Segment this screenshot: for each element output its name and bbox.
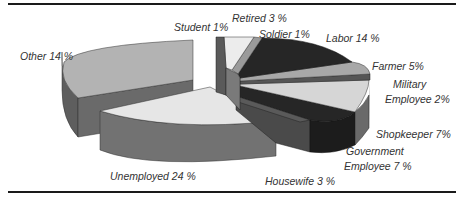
label-government-line1: Government: [346, 145, 404, 157]
label-unemployed: Unemployed 24 %: [110, 170, 196, 182]
label-student: Student 1%: [174, 21, 228, 33]
label-military-line2: Employee 2%: [385, 93, 450, 105]
label-retired: Retired 3 %: [232, 12, 287, 24]
label-farmer: Farmer 5%: [372, 60, 424, 72]
label-other: Other 14 %: [20, 50, 73, 62]
slice-student: [216, 37, 226, 95]
label-shopkeeper: Shopkeeper 7%: [376, 128, 451, 140]
label-military-line1: Military: [393, 78, 426, 90]
label-labor: Labor 14 %: [326, 32, 380, 44]
label-soldier: Soldier 1%: [259, 28, 310, 40]
pie-chart-figure: Student 1% Retired 3 % Soldier 1% Labor …: [0, 0, 463, 200]
label-government-line2: Employee 7 %: [344, 160, 412, 172]
label-housewife: Housewife 3 %: [265, 175, 335, 187]
bottom-rule: [8, 191, 456, 193]
